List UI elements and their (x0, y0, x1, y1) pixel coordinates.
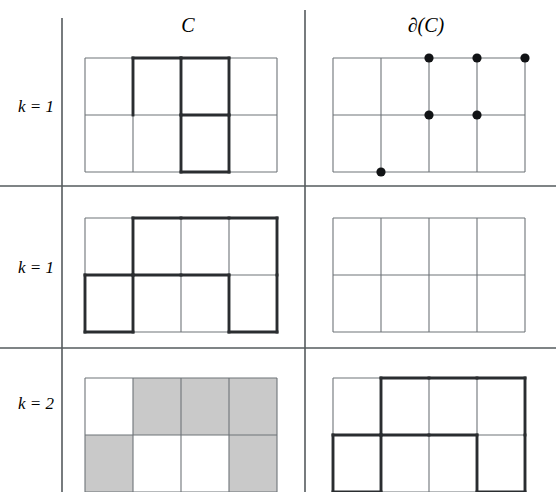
cubical-chain-boundary-diagram: C ∂(C) k = 1 k = 1 k = 2 (0, 0, 556, 492)
shaded-cell (229, 435, 277, 492)
shaded-cell (229, 378, 277, 435)
vertex-dot (424, 53, 433, 62)
column-header-C: C (181, 14, 195, 36)
column-header-boundary-C: ∂(C) (408, 14, 445, 37)
figure-root: C ∂(C) k = 1 k = 1 k = 2 (0, 0, 556, 492)
vertex-dot (376, 167, 385, 176)
row-label-k2: k = 2 (18, 394, 55, 413)
shaded-cell (85, 435, 133, 492)
vertex-dot (520, 53, 529, 62)
vertex-dot (472, 110, 481, 119)
row-label-k1-first: k = 1 (18, 97, 54, 116)
shaded-cell (181, 378, 229, 435)
vertex-dot (472, 53, 481, 62)
shaded-cell (133, 378, 181, 435)
vertex-dot (424, 110, 433, 119)
row-label-k1-second: k = 1 (18, 258, 54, 277)
